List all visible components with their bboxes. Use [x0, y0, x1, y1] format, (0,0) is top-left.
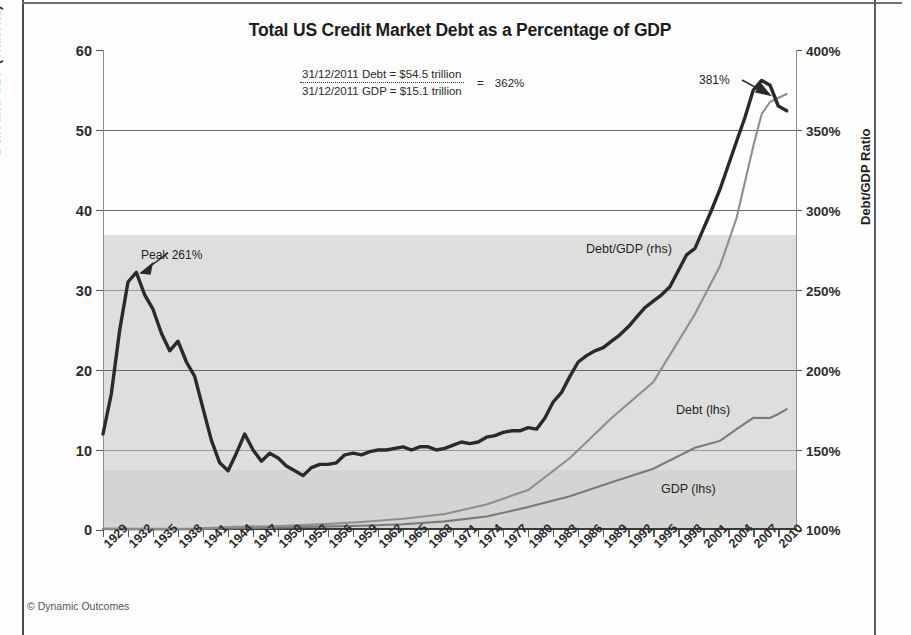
annotation-peak-261: Peak 261%	[141, 248, 202, 262]
y-tick-right-350: 350%	[806, 124, 860, 139]
calc-numerator: 31/12/2011 Debt = $54.5 trillion	[300, 68, 464, 80]
page-title: Total US Credit Market Debt as a Percent…	[120, 20, 800, 41]
y-tick-right-300: 300%	[806, 204, 860, 219]
calc-equals-sign: =	[477, 77, 484, 89]
y-tick-left-30: 30	[52, 283, 92, 299]
plot-area	[103, 50, 797, 530]
y-tick-left-20: 20	[52, 363, 92, 379]
y-tick-left-0: 0	[52, 522, 92, 538]
series-label-gdp: GDP (lhs)	[661, 482, 716, 496]
y-tick-right-200: 200%	[806, 364, 860, 379]
series-label-debt-gdp: Debt/GDP (rhs)	[586, 242, 672, 256]
page-border-left	[22, 0, 24, 635]
y-tick-left-40: 40	[52, 203, 92, 219]
annotation-peak-381: 381%	[699, 73, 730, 87]
gridline-50	[104, 130, 796, 131]
y-axis-left-title: Debt and GDP (Trillions)	[0, 6, 3, 155]
series-label-debt: Debt (lhs)	[676, 403, 730, 417]
plot-shaded-region-lower	[104, 470, 796, 530]
page-border-top	[22, 2, 902, 4]
y-tick-right-100: 100%	[806, 523, 860, 538]
page-border-right	[874, 0, 876, 635]
calculation-annotation: 31/12/2011 Debt = $54.5 trillion 31/12/2…	[300, 68, 524, 97]
y-tick-left-50: 50	[52, 123, 92, 139]
gridline-30	[104, 290, 796, 291]
calc-denominator: 31/12/2011 GDP = $15.1 trillion	[300, 85, 464, 97]
y-tick-left-60: 60	[52, 43, 92, 59]
gridline-40	[104, 210, 796, 211]
y-tick-right-400: 400%	[806, 44, 860, 59]
gridline-10	[104, 450, 796, 451]
y-axis-right-title: Debt/GDP Ratio	[858, 128, 873, 225]
y-tick-left-10: 10	[52, 443, 92, 459]
gridline-20	[104, 370, 796, 371]
copyright-notice: © Dynamic Outcomes	[27, 600, 129, 612]
chart-page: Total US Credit Market Debt as a Percent…	[0, 0, 911, 635]
y-tick-right-150: 150%	[806, 444, 860, 459]
y-tick-right-250: 250%	[806, 284, 860, 299]
calc-fraction-bar	[300, 82, 464, 83]
calc-result: 362%	[495, 77, 524, 89]
